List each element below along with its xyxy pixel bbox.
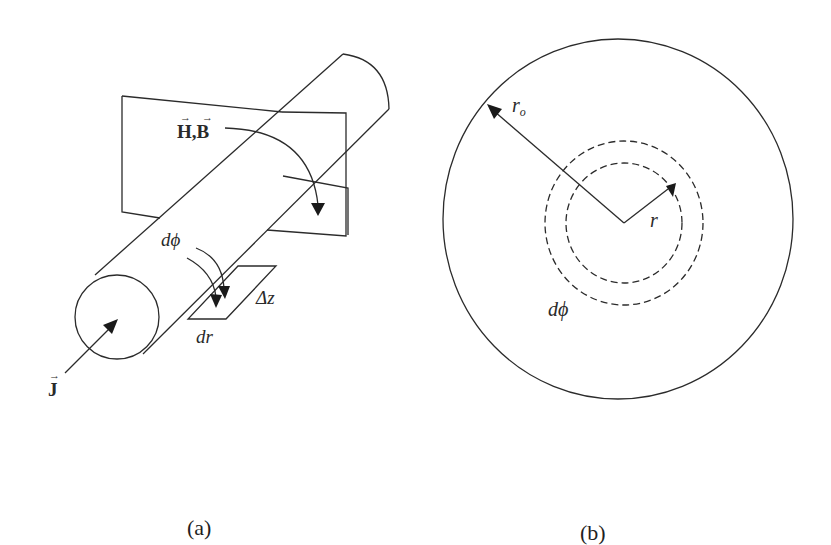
vector-mark-h-icon: → xyxy=(180,111,191,123)
figure-canvas: H,B → → dϕ Δz dr J → ro r dϕ (a) (b) xyxy=(0,0,831,545)
panel-a: H,B → → dϕ Δz dr J → xyxy=(48,54,389,400)
dphi-arrow-2 xyxy=(196,248,224,288)
current-density-label: J xyxy=(48,379,58,400)
d-phi-label-a: dϕ xyxy=(161,229,181,250)
current-arrowhead-icon xyxy=(103,319,118,334)
radius-label: r xyxy=(650,209,658,231)
field-label: H,B xyxy=(177,121,210,142)
plane-top-edge xyxy=(122,96,282,112)
plane-right-edge xyxy=(267,112,346,236)
dphi-arrow-1 xyxy=(187,258,216,297)
vector-mark-j-icon: → xyxy=(49,369,60,381)
cylinder-back-arc xyxy=(343,54,389,109)
dr-label: dr xyxy=(196,326,214,347)
plane-outline xyxy=(122,96,160,218)
d-phi-label-b: dϕ xyxy=(548,298,568,321)
outer-radius-label: ro xyxy=(512,94,526,119)
panel-b: ro r dϕ xyxy=(443,39,793,399)
current-arrow xyxy=(65,328,110,373)
vector-mark-b-icon: → xyxy=(202,111,213,123)
cylinder-front-face xyxy=(75,275,159,359)
radius-arrow xyxy=(624,189,668,223)
field-arrowhead-icon xyxy=(311,203,325,216)
outer-circle xyxy=(443,39,793,399)
dphi-arrowhead-1-icon xyxy=(210,294,222,308)
delta-z-label: Δz xyxy=(255,287,275,308)
caption-a: (a) xyxy=(187,515,211,540)
caption-b: (b) xyxy=(580,520,606,545)
